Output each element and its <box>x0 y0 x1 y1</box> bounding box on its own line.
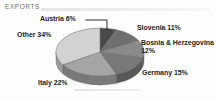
pie-label-germany: Germany 15% <box>142 69 188 77</box>
pie-label-slovenia: Slovenia 11% <box>137 24 181 32</box>
footer-divider <box>74 89 140 91</box>
pie-slices: Austria 6%Slovenia 11%Bosnia & Herzegovi… <box>56 28 144 76</box>
pie-label-bosnia-herzegovina: Bosnia & Herzegovina 12% <box>141 39 215 56</box>
panel-header: EXPORTS <box>0 0 217 14</box>
pie-label-austria: Austria 6% <box>40 15 76 23</box>
header-divider <box>41 8 209 11</box>
exports-infographic-panel: EXPORTS Austria 6%Slovenia 11%Bosnia & H… <box>0 0 217 99</box>
page-title: EXPORTS <box>5 3 40 10</box>
pie-label-other: Other 34% <box>17 31 51 39</box>
pie-label-italy: Italy 22% <box>38 79 68 87</box>
austria-leader-line <box>85 19 109 32</box>
